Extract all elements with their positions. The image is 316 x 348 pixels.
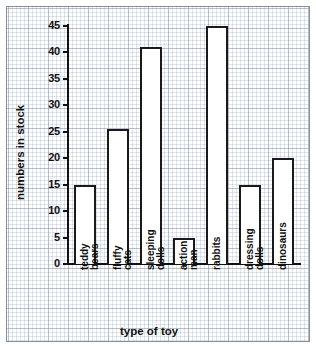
x-axis-category-label: fluffycats [113,246,133,270]
y-axis-tick-label: 5 [8,232,60,243]
x-axis-category-label: dressingdolls [245,228,265,270]
bar-chart: 051015202530354045 teddybearsfluffycatss… [0,0,316,348]
y-axis-tick-label: 35 [8,73,60,84]
y-axis-tick-label-text: 5 [14,232,60,243]
x-axis-category-label: rabbits [212,237,222,270]
bar [107,129,129,264]
y-axis-tick-label-text: 45 [14,20,60,31]
bar [206,26,228,264]
y-axis-tick-label: 10 [8,205,60,216]
y-axis-tick-label-text: 0 [14,258,60,269]
x-axis-category-label: actionman [179,241,199,270]
y-axis-tick-label-text: 10 [14,205,60,216]
x-axis-category-label: sleepingdolls [146,229,166,270]
plot-area [68,26,300,264]
y-axis-tick-label-text: 35 [14,73,60,84]
x-axis-category-label: teddybears [80,243,100,270]
y-axis-tick-label: 45 [8,20,60,31]
y-axis-tick-label-text: 40 [14,46,60,57]
y-axis-tick-label: 0 [8,258,60,269]
y-axis-title: numbers in stock [14,105,26,200]
y-axis-tick-label: 40 [8,46,60,57]
x-axis-category-label: dinosaurs [278,222,288,270]
x-axis-title: type of toy [120,325,178,337]
